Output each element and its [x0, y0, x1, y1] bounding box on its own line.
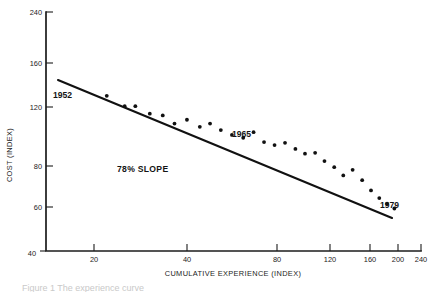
annotation-1952: 1952 [53, 90, 72, 100]
x-tick-label-200: 200 [392, 255, 404, 264]
data-point [323, 159, 327, 163]
data-point [341, 174, 345, 178]
data-point [332, 165, 336, 169]
data-point [303, 152, 307, 156]
chart-canvas: 240 160 120 80 60 40 20 40 80 120 160 20… [0, 0, 439, 292]
y-tick-label-120: 120 [30, 103, 42, 112]
x-tick-label-80: 80 [273, 255, 281, 264]
x-tick-label-120: 120 [324, 255, 336, 264]
data-point [105, 94, 109, 98]
data-point [252, 130, 256, 134]
y-tick-label-160: 160 [30, 59, 42, 68]
scatter-points [105, 94, 396, 210]
data-point [123, 104, 127, 108]
data-point [185, 118, 189, 122]
data-point [273, 143, 277, 147]
y-tick-label-60: 60 [34, 203, 42, 212]
fit-line-78-percent [58, 80, 392, 218]
x-axis-tick-labels: 20 40 80 120 160 200 240 [90, 255, 427, 264]
data-point [294, 147, 298, 151]
data-point [148, 112, 152, 116]
data-point [369, 189, 373, 193]
x-axis-ticks [94, 244, 421, 251]
data-point [360, 178, 364, 182]
experience-curve-figure: 240 160 120 80 60 40 20 40 80 120 160 20… [0, 0, 439, 292]
x-tick-label-160: 160 [364, 255, 376, 264]
y-tick-label-240: 240 [30, 8, 42, 17]
data-point [219, 128, 223, 132]
data-point [173, 122, 177, 126]
data-point [262, 140, 266, 144]
x-tick-label-40: 40 [183, 255, 191, 264]
data-point [161, 114, 165, 118]
data-point [198, 125, 202, 129]
data-point [283, 141, 287, 145]
y-tick-label-40: 40 [28, 249, 36, 258]
x-tick-label-20: 20 [90, 255, 98, 264]
x-tick-label-240: 240 [415, 255, 427, 264]
data-point [208, 122, 212, 126]
annotation-1979: 1979 [380, 200, 399, 210]
annotation-1965: 1965 [232, 129, 251, 139]
x-axis-title: CUMULATIVE EXPERIENCE (INDEX) [165, 269, 302, 278]
data-point [133, 104, 137, 108]
data-point [351, 168, 355, 172]
y-axis-tick-labels: 240 160 120 80 60 40 [28, 8, 42, 258]
data-point [313, 151, 317, 155]
y-tick-label-80: 80 [34, 162, 42, 171]
y-axis-title: COST (INDEX) [5, 128, 14, 182]
annotation-slope: 78% SLOPE [117, 164, 168, 174]
figure-caption-clipped: Figure 1 The experience curve [0, 283, 439, 292]
